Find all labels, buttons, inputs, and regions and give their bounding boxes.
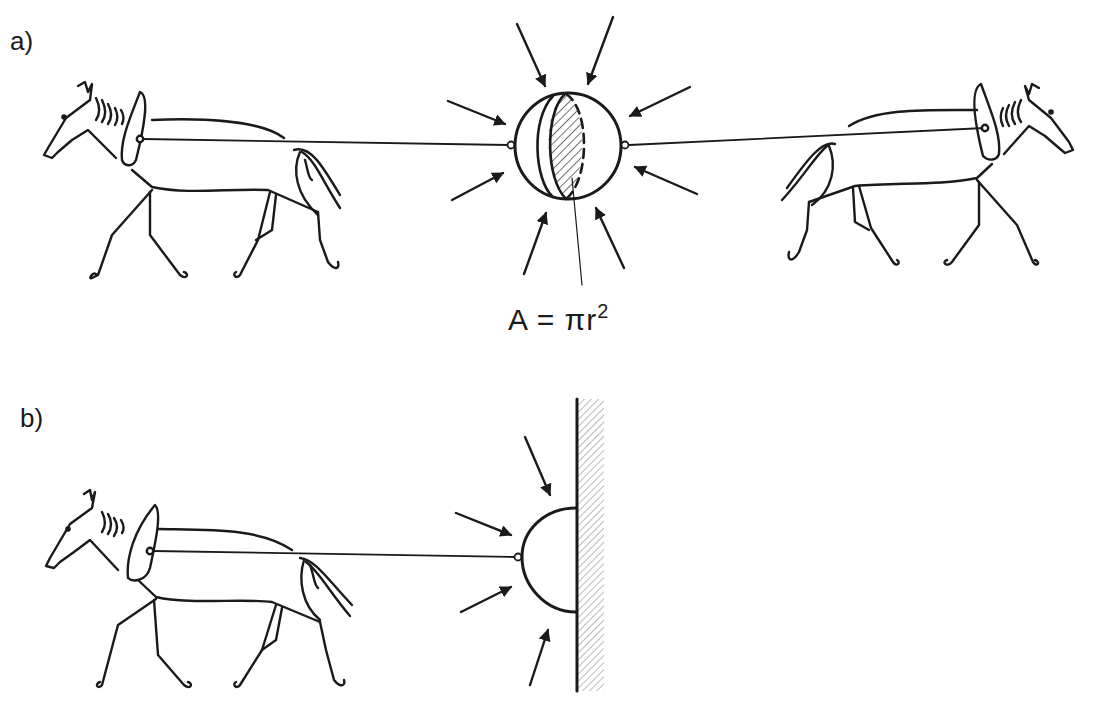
- panel-b: [46, 399, 604, 691]
- hook-right: [622, 142, 629, 149]
- magdeburg-sphere: [515, 93, 621, 199]
- rope-left: [143, 139, 508, 145]
- rope-single: [153, 551, 514, 557]
- rope-right: [629, 128, 985, 145]
- hemisphere: [522, 508, 576, 612]
- diagram-canvas: [0, 0, 1117, 721]
- horse-right-icon: [782, 84, 1073, 265]
- hook-left: [508, 142, 515, 149]
- area-pointer: [572, 178, 582, 285]
- horse-left-icon: [44, 82, 340, 278]
- horse-single-icon: [46, 490, 352, 687]
- wall-hatching: [578, 399, 604, 691]
- panel-a: [44, 17, 1073, 285]
- pressure-arrows-b: [456, 437, 550, 685]
- hook-single: [515, 554, 522, 561]
